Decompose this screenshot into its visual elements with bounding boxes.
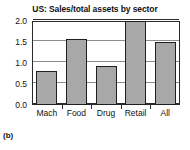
y-tick-label: 2.0 (15, 17, 27, 26)
x-category-label-mach: Mach (36, 108, 57, 119)
x-category-label-food: Food (67, 108, 86, 119)
x-category-label-retail: Retail (125, 108, 147, 119)
x-category-label-all: All (160, 108, 169, 119)
y-tick-label: 0.0 (15, 101, 27, 110)
bar-mach (36, 71, 57, 105)
y-axis: 0.00.51.01.52.0 (0, 21, 30, 105)
chart-title: US: Sales/total assets by sector (0, 4, 190, 14)
x-axis: MachFoodDrugRetailAll (32, 108, 180, 120)
x-category-label-drug: Drug (97, 108, 115, 119)
panel-caption: (b) (3, 131, 13, 141)
chart-figure: US: Sales/total assets by sector 0.00.51… (0, 0, 190, 150)
bar-food (66, 39, 87, 105)
y-tick-label: 1.5 (15, 38, 27, 47)
bar-retail (125, 21, 146, 105)
bar-all (155, 42, 176, 105)
bar-drug (96, 66, 117, 105)
y-tick-label: 1.0 (15, 59, 27, 68)
gridline-2 (33, 19, 179, 20)
y-tick-label: 0.5 (15, 80, 27, 89)
bar-series (32, 21, 180, 105)
